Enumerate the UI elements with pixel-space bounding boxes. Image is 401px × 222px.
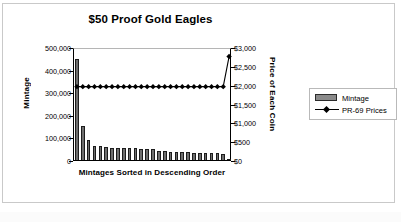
price-line-marker [191,84,196,89]
price-line-marker [74,84,79,89]
price-line-marker [226,54,231,59]
price-line-path [77,57,229,87]
price-line-marker [180,84,185,89]
legend-label-pr69-prices: PR-69 Prices [340,106,387,115]
price-line-marker [203,84,208,89]
price-line-marker [221,84,226,89]
price-line-marker [150,84,155,89]
y-axis-right-tick-label: $1,500 [234,100,256,109]
y-axis-left-tick [69,48,73,49]
y-axis-right-tick [231,48,235,49]
price-line-marker [92,84,97,89]
y-axis-right-tick-label: $1,000 [234,119,256,128]
legend-item-mintage: Mintage [314,92,392,104]
page-bottom-strip [0,212,401,222]
price-line-marker [185,84,190,89]
price-line-marker [139,84,144,89]
price-line-marker [162,84,167,89]
price-line-marker [109,84,114,89]
y-axis-right-tick-label: $500 [234,138,250,147]
y-axis-left-tick-label: 100,000 [45,134,71,143]
y-axis-left-tick-label: 300,000 [45,89,71,98]
price-line-marker [133,84,138,89]
price-line-marker [103,84,108,89]
price-line-marker [80,84,85,89]
y-axis-right-tick [231,161,235,162]
y-axis-left-tick [69,161,73,162]
y-axis-left-labels: 500,000400,000300,000200,000100,0000 [25,42,71,168]
y-axis-right-tick-label: $2,000 [234,81,256,90]
legend-label-mintage: Mintage [340,94,369,103]
y-axis-right-tick-label: $2,500 [234,62,256,71]
y-axis-right-tick-label: $3,000 [234,44,256,53]
y-axis-right-tick [231,142,235,143]
price-line-marker [115,84,120,89]
chart-container: $50 Proof Gold Eagles Mintage 500,000400… [2,3,395,203]
price-line-marker [98,84,103,89]
plot-area [73,48,231,161]
y-axis-left-tick [69,71,73,72]
y-axis-left-tick-label: 500,000 [45,44,71,53]
price-line-marker [209,84,214,89]
price-line-marker [121,84,126,89]
y-axis-left-tick-label: 400,000 [45,66,71,75]
y-axis-right-tick [231,67,235,68]
legend-item-pr69-prices: PR-69 Prices [314,104,392,116]
y-axis-right-tick [231,105,235,106]
legend-bar-swatch-icon [314,92,340,104]
y-axis-right-tick [231,86,235,87]
chart-title: $50 Proof Gold Eagles [3,13,298,25]
price-line-marker [197,84,202,89]
price-line-marker [156,84,161,89]
price-line-marker [174,84,179,89]
y-axis-left-tick [69,116,73,117]
y-axis-right-tick [231,123,235,124]
price-line-marker [86,84,91,89]
legend-line-marker-icon [314,104,340,116]
price-line-marker [168,84,173,89]
line-series-pr69-prices [74,49,232,162]
chart-legend: Mintage PR-69 Prices [309,88,397,120]
y-axis-left-tick [69,138,73,139]
y-axis-right-tick-label: $0 [234,157,242,166]
x-axis-title: Mintages Sorted in Descending Order [73,168,231,177]
price-line-marker [144,84,149,89]
y-axis-left-tick [69,93,73,94]
price-line-marker [215,84,220,89]
price-line-marker [127,84,132,89]
y-axis-right-title: Price of Each Coin [268,57,277,131]
y-axis-left-tick-label: 200,000 [45,111,71,120]
